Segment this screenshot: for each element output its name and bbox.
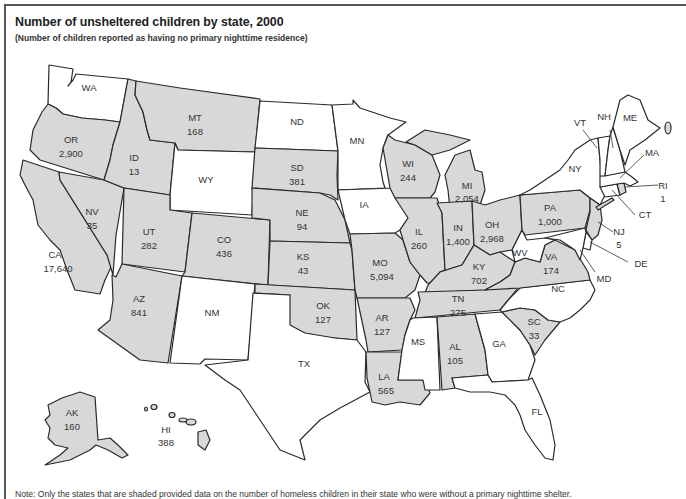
svg-text:244: 244 [400,172,416,183]
svg-text:43: 43 [298,265,309,276]
state-HI-niihau [145,407,148,411]
svg-text:MO: MO [372,257,387,268]
label-MA: MA [645,147,660,158]
svg-text:LA: LA [378,371,390,382]
label-NM: NM [205,307,220,318]
label-NH: NH [597,111,611,122]
label-FL: FL [531,406,542,417]
svg-text:OK: OK [316,300,330,311]
svg-text:AZ: AZ [133,293,145,304]
svg-text:MS: MS [411,336,425,347]
svg-text:PA: PA [544,202,557,213]
svg-text:275: 275 [450,307,466,318]
svg-text:WA: WA [82,82,98,93]
label-IA: IA [360,199,370,210]
svg-text:NJ: NJ [613,226,625,237]
svg-text:33: 33 [529,330,540,341]
svg-text:HI: HI [161,424,171,435]
svg-text:1,400: 1,400 [446,236,470,247]
svg-text:TX: TX [298,358,311,369]
svg-text:NM: NM [205,307,220,318]
svg-text:MN: MN [350,135,365,146]
svg-text:MD: MD [597,273,612,284]
state-HI-kauai [151,405,157,410]
svg-text:VA: VA [545,251,558,262]
svg-text:MI: MI [462,180,473,191]
svg-text:35: 35 [87,220,98,231]
label-ND: ND [290,116,304,127]
leader-DE [590,242,628,262]
svg-text:OR: OR [64,134,78,145]
label-DE: DE [634,258,647,269]
footnote: Note: Only the states that are shaded pr… [15,488,572,499]
state-AK [45,392,128,465]
state-HI-big [198,430,210,450]
label-NJ: NJ5 [613,226,625,250]
island-nova-scotia [665,122,671,134]
svg-text:565: 565 [378,385,394,396]
svg-text:CT: CT [639,209,652,220]
svg-text:VT: VT [574,117,586,128]
svg-text:1: 1 [660,193,665,204]
state-KS [268,241,355,290]
svg-text:381: 381 [289,176,305,187]
svg-text:1,000: 1,000 [538,216,562,227]
svg-text:2,900: 2,900 [59,148,83,159]
svg-text:UT: UT [143,226,156,237]
svg-text:NY: NY [568,163,582,174]
svg-text:IL: IL [415,226,423,237]
label-WA: WA [82,82,98,93]
label-GA: GA [492,338,506,349]
svg-text:MA: MA [645,147,660,158]
svg-text:94: 94 [297,221,308,232]
svg-text:282: 282 [141,240,157,251]
svg-text:NE: NE [295,207,308,218]
svg-text:260: 260 [411,240,427,251]
svg-text:ID: ID [129,152,139,163]
svg-text:13: 13 [129,166,140,177]
label-VT: VT [574,117,586,128]
label-MN: MN [350,135,365,146]
svg-text:DE: DE [634,258,647,269]
svg-text:AR: AR [375,312,388,323]
state-HI-oahu [169,413,175,418]
svg-text:ND: ND [290,116,304,127]
svg-text:SD: SD [290,162,303,173]
svg-text:2,054: 2,054 [455,193,479,204]
label-WY: WY [198,174,214,185]
svg-text:KS: KS [297,251,310,262]
svg-text:CO: CO [217,234,231,245]
svg-text:AL: AL [449,341,461,352]
svg-text:CA: CA [48,249,62,260]
svg-text:IA: IA [360,199,370,210]
svg-text:702: 702 [471,275,487,286]
svg-text:IN: IN [453,222,463,233]
svg-text:388: 388 [158,437,174,448]
svg-text:5: 5 [616,239,621,250]
svg-text:WY: WY [198,174,214,185]
svg-text:WV: WV [512,247,528,258]
state-FL [452,375,555,460]
svg-text:NC: NC [551,283,565,294]
svg-text:5,094: 5,094 [370,271,394,282]
label-ME: ME [623,112,637,123]
svg-text:SC: SC [527,316,540,327]
svg-text:NV: NV [85,206,99,217]
svg-text:2,968: 2,968 [480,233,504,244]
svg-text:AK: AK [66,407,79,418]
svg-text:OH: OH [485,219,499,230]
label-TX: TX [298,358,311,369]
svg-text:KY: KY [473,261,486,272]
svg-text:105: 105 [447,355,463,366]
svg-text:127: 127 [374,326,390,337]
label-WV: WV [512,247,528,258]
svg-text:841: 841 [131,307,147,318]
svg-text:MT: MT [188,112,202,123]
svg-text:WI: WI [402,158,414,169]
svg-text:160: 160 [64,421,80,432]
svg-text:ME: ME [623,112,637,123]
label-CT: CT [639,209,652,220]
svg-text:127: 127 [315,314,331,325]
label-MD: MD [597,273,612,284]
state-HI-molokai [179,418,187,422]
